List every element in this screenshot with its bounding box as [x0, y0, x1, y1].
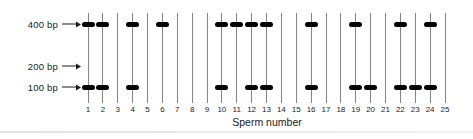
lane-line	[162, 13, 163, 103]
lane-number: 1	[81, 105, 96, 114]
lane-line	[102, 13, 103, 103]
lane-line	[445, 13, 446, 103]
lane-number: 14	[274, 105, 289, 114]
lane-line	[177, 13, 178, 103]
lane-number: 11	[229, 105, 244, 114]
lane-number: 3	[110, 105, 125, 114]
band-400bp	[230, 22, 243, 27]
lane-number: 4	[125, 105, 140, 114]
x-axis-label: Sperm number	[232, 116, 301, 128]
lane-number: 16	[304, 105, 319, 114]
lane-line	[281, 13, 282, 103]
lane-line	[266, 13, 267, 103]
lane-number: 5	[140, 105, 155, 114]
lane-line	[400, 13, 401, 103]
lane-line	[311, 13, 312, 103]
lane-number: 23	[408, 105, 423, 114]
band-100bp	[424, 85, 437, 90]
lane-number: 12	[244, 105, 259, 114]
band-400bp	[349, 22, 362, 27]
lane-line	[296, 13, 297, 103]
lane-number: 2	[95, 105, 110, 114]
band-100bp	[409, 85, 422, 90]
lane-line	[192, 13, 193, 103]
lane-line	[221, 13, 222, 103]
lane-number: 20	[363, 105, 378, 114]
lane-number: 13	[259, 105, 274, 114]
band-100bp	[305, 85, 318, 90]
lane-line	[370, 13, 371, 103]
band-100bp	[245, 85, 258, 90]
band-400bp	[260, 22, 273, 27]
band-100bp	[394, 85, 407, 90]
lane-number: 24	[423, 105, 438, 114]
lane-number: 9	[200, 105, 215, 114]
band-100bp	[96, 85, 109, 90]
band-400bp	[305, 22, 318, 27]
lane-number: 7	[170, 105, 185, 114]
lane-number: 6	[155, 105, 170, 114]
lane-number: 21	[378, 105, 393, 114]
band-100bp	[126, 85, 139, 90]
lane-line	[415, 13, 416, 103]
lane-number: 25	[438, 105, 453, 114]
lane-line	[88, 13, 89, 103]
lane-line	[251, 13, 252, 103]
band-400bp	[82, 22, 95, 27]
band-400bp	[394, 22, 407, 27]
lane-line	[326, 13, 327, 103]
band-100bp	[364, 85, 377, 90]
lane-line	[207, 13, 208, 103]
lane-number: 22	[393, 105, 408, 114]
lane-line	[385, 13, 386, 103]
lane-line	[132, 13, 133, 103]
band-400bp	[96, 22, 109, 27]
band-400bp	[215, 22, 228, 27]
gel-electrophoresis-figure: 400 bp 200 bp 100 bp 1234567891011121314…	[0, 0, 473, 139]
band-400bp	[156, 22, 169, 27]
band-400bp	[126, 22, 139, 27]
lane-line	[340, 13, 341, 103]
lane-number: 19	[348, 105, 363, 114]
lane-number: 18	[333, 105, 348, 114]
band-100bp	[82, 85, 95, 90]
lane-number: 8	[185, 105, 200, 114]
band-100bp	[260, 85, 273, 90]
band-400bp	[424, 22, 437, 27]
lane-line	[430, 13, 431, 103]
band-400bp	[245, 22, 258, 27]
band-100bp	[215, 85, 228, 90]
scan-artifact-line	[0, 131, 473, 133]
lane-number: 15	[289, 105, 304, 114]
band-100bp	[349, 85, 362, 90]
lane-line	[355, 13, 356, 103]
lane-line	[147, 13, 148, 103]
lane-number: 10	[214, 105, 229, 114]
lane-line	[117, 13, 118, 103]
lane-number: 17	[319, 105, 334, 114]
lane-line	[236, 13, 237, 103]
